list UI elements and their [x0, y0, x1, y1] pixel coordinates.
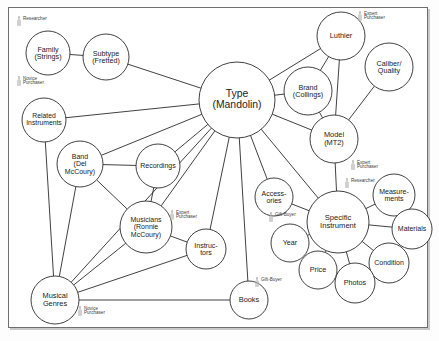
node-label-year: Year [283, 239, 298, 246]
node-label-specific: SpecificInstrument [320, 214, 356, 229]
annotation-text: Researcher [23, 16, 47, 21]
annotation-line: Purchaser [364, 16, 385, 21]
person-icon [269, 212, 273, 222]
node-label-caliber: Caliber/Quality [377, 60, 402, 75]
annotation-line: Purchaser [176, 215, 197, 220]
annotation-text: NovicePurchaser [84, 306, 105, 316]
edge-subtype-type [128, 64, 201, 88]
annotation-line: Researcher [351, 179, 375, 184]
edge-type-accessories [251, 136, 268, 180]
node-label-line: ories [262, 197, 287, 204]
node-accessories[interactable]: Access-ories [253, 178, 296, 216]
annotation-text: ExpertPurchaser [357, 160, 378, 170]
annotation-line: Gift-Buyer [275, 213, 296, 218]
node-label-musicians: Musicians(RonnieMcCoury) [130, 216, 161, 237]
node-label-line: Price [310, 266, 326, 273]
edge-instructors-genres [78, 255, 187, 292]
node-label-line: tors [194, 249, 217, 256]
edge-related-genres [45, 142, 53, 276]
node-label-luthier: Luthier [330, 32, 353, 40]
node-label-brand: Brand(Collings) [293, 84, 323, 99]
node-label-line: Recordings [140, 162, 175, 169]
node-year[interactable]: Year [269, 224, 312, 262]
node-label-line: (MT2) [324, 139, 344, 147]
node-label-line: (Fretted) [92, 57, 120, 64]
annotation-text: NovicePurchaser [23, 76, 44, 86]
node-label-line: Quality [377, 67, 402, 74]
node-label-line: Luthier [330, 32, 353, 40]
node-instructors[interactable]: Instruc-tors [184, 229, 229, 269]
annotation-text: ExpertPurchaser [364, 11, 385, 21]
annotation-text: Researcher [351, 178, 375, 183]
ann-novice-family: NovicePurchaser [17, 76, 44, 86]
node-label-measurements: Measure-ments [379, 188, 409, 202]
ann-novice-genres: NovicePurchaser [78, 306, 105, 316]
node-model[interactable]: Model(MT2) [307, 115, 361, 163]
node-label-line: Books [239, 296, 260, 304]
node-label-line: McCoury) [130, 231, 161, 238]
node-type[interactable]: Type(Mandolin) [194, 62, 280, 138]
node-label-line: Genres [42, 300, 67, 308]
node-label-line: Photos [344, 279, 366, 286]
annotation-line: Gift-Buyer [261, 278, 282, 283]
person-icon [255, 277, 259, 287]
node-recordings[interactable]: Recordings [133, 144, 183, 188]
node-genres[interactable]: MusicalGenres [28, 276, 82, 324]
person-icon [345, 178, 349, 188]
ann-expert-musicians: ExpertPurchaser [170, 210, 197, 220]
annotation-text: Gift-Buyer [275, 212, 296, 217]
person-icon [351, 160, 355, 170]
node-caliber[interactable]: Caliber/Quality [362, 43, 416, 91]
person-icon [17, 76, 21, 86]
node-label-line: Access- [262, 190, 287, 197]
node-band[interactable]: Band(DelMcCoury) [54, 141, 106, 187]
node-label-condition: Condition [374, 259, 404, 266]
edge-specific-photos [346, 252, 349, 264]
node-musicians[interactable]: Musicians(RonnieMcCoury) [117, 201, 176, 253]
node-family[interactable]: Family(Strings) [23, 31, 73, 75]
node-label-line: Band [65, 153, 95, 160]
ann-researcher-specific: Researcher [345, 178, 375, 188]
ann-expert-luthier: ExpertPurchaser [358, 11, 385, 21]
node-label-books: Books [239, 296, 260, 304]
node-brand[interactable]: Brand(Collings) [281, 67, 335, 115]
node-label-line: (Collings) [293, 91, 323, 98]
diagram-canvas: Family(Strings)Subtype(Fretted)RelatedIn… [0, 0, 439, 341]
node-label-recordings: Recordings [140, 162, 175, 169]
person-icon [17, 16, 21, 26]
annotation-line: Researcher [23, 17, 47, 22]
ann-giftbuyer-books: Gift-Buyer [255, 277, 282, 287]
node-label-line: Year [283, 239, 298, 246]
annotation-text: Gift-Buyer [261, 277, 282, 282]
node-label-line: (Mandolin) [212, 100, 261, 111]
node-label-line: Musicians [130, 216, 161, 223]
node-label-line: Condition [374, 259, 404, 266]
node-label-model: Model(MT2) [324, 131, 344, 146]
node-label-line: McCoury) [65, 168, 95, 175]
node-label-accessories: Access-ories [262, 190, 287, 204]
node-label-line: (Ronnie [130, 223, 161, 230]
edge-related-type [66, 104, 199, 118]
edge-type-books [239, 138, 248, 281]
annotation-line: Purchaser [357, 165, 378, 170]
node-label-band: Band(DelMcCoury) [65, 153, 95, 174]
node-label-family: Family(Strings) [34, 46, 61, 61]
node-label-line: ments [379, 195, 409, 202]
node-label-related: RelatedInstruments [26, 113, 62, 127]
node-label-line: Instruments [26, 120, 62, 127]
node-label-line: Materials [398, 225, 426, 232]
node-label-price: Price [310, 266, 326, 273]
node-specific[interactable]: SpecificInstrument [303, 191, 373, 253]
node-label-materials: Materials [398, 225, 426, 232]
person-icon [170, 210, 174, 220]
edge-band-genres [59, 187, 75, 277]
edge-luthier-model [336, 60, 340, 115]
node-label-instructors: Instruc-tors [194, 242, 217, 256]
annotation-line: Purchaser [84, 311, 105, 316]
node-label-line: Instrument [320, 222, 356, 230]
node-subtype[interactable]: Subtype(Fretted) [80, 34, 132, 80]
annotation-text: ExpertPurchaser [176, 210, 197, 220]
person-icon [358, 11, 362, 21]
edge-band-recordings [103, 165, 136, 166]
node-related[interactable]: RelatedInstruments [19, 98, 69, 142]
